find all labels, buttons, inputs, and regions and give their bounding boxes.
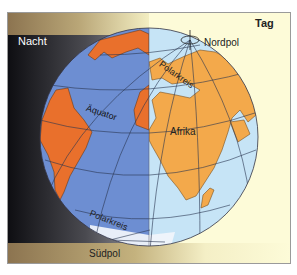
africa-label: Afrika [170,126,196,137]
night-label: Nacht [18,35,47,47]
globe-illustration [7,12,291,264]
north-pole-label: Nordpol [204,37,239,48]
south-pole-label: Südpol [89,248,120,259]
diagram-frame: Nacht Tag Nordpol Polarkreis Äquator Afr… [7,12,291,264]
day-label: Tag [255,17,274,29]
